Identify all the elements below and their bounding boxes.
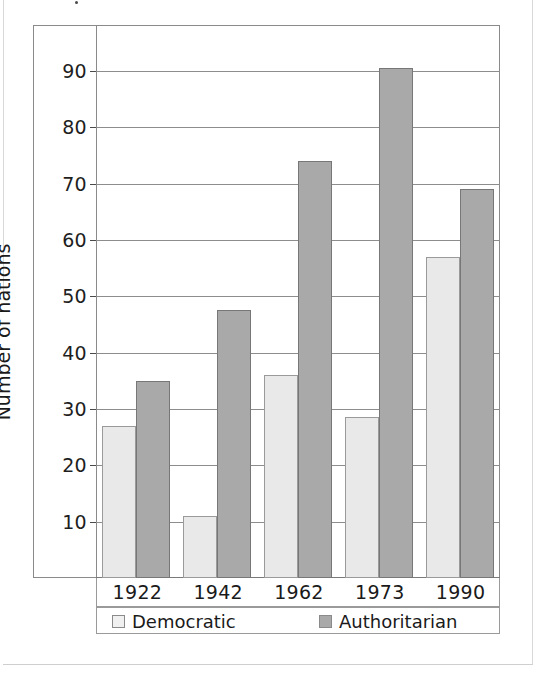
bar-democratic-1942 bbox=[183, 516, 217, 578]
legend-item-authoritarian[interactable]: Authoritarian bbox=[319, 608, 458, 635]
y-axis-tick bbox=[90, 296, 96, 297]
y-axis-tick-label: 60 bbox=[62, 229, 87, 251]
y-axis-tick-label: 30 bbox=[62, 398, 87, 420]
y-axis-tick bbox=[90, 71, 96, 72]
y-axis-tick-label: 90 bbox=[62, 60, 87, 82]
bar-democratic-1962 bbox=[264, 375, 298, 578]
y-axis-tick-label: 40 bbox=[62, 342, 87, 364]
y-axis-tick bbox=[90, 127, 96, 128]
y-axis-tick bbox=[90, 409, 96, 410]
y-axis-title: Number of nations bbox=[0, 232, 14, 432]
bar-authoritarian-1973 bbox=[379, 68, 413, 578]
bar-authoritarian-1942 bbox=[217, 310, 251, 578]
x-axis-label-1962: 1962 bbox=[259, 578, 340, 607]
x-axis-label-1990: 1990 bbox=[420, 578, 501, 607]
legend-label-authoritarian: Authoritarian bbox=[339, 611, 458, 632]
bar-authoritarian-1990 bbox=[460, 189, 494, 578]
x-axis-label-1922: 1922 bbox=[97, 578, 178, 607]
bar-democratic-1973 bbox=[345, 417, 379, 578]
gridline bbox=[96, 71, 500, 72]
y-axis-tick-label: 80 bbox=[62, 116, 87, 138]
authoritarian-swatch-icon bbox=[319, 615, 332, 628]
legend-label-democratic: Democratic bbox=[132, 611, 236, 632]
y-axis-tick-label: 20 bbox=[62, 454, 87, 476]
y-axis-tick-label: 10 bbox=[62, 511, 87, 533]
y-axis-tick bbox=[90, 465, 96, 466]
bar-democratic-1922 bbox=[102, 426, 136, 578]
legend-item-democratic[interactable]: Democratic bbox=[112, 608, 236, 635]
y-axis-tick bbox=[90, 522, 96, 523]
y-axis-tick bbox=[90, 184, 96, 185]
bar-authoritarian-1962 bbox=[298, 161, 332, 578]
democratic-swatch-icon bbox=[112, 615, 125, 628]
bar-authoritarian-1922 bbox=[136, 381, 170, 578]
plot-area: 102030405060708090 bbox=[96, 26, 500, 578]
chart-legend: Democratic Authoritarian bbox=[96, 607, 500, 634]
y-axis-tick bbox=[90, 240, 96, 241]
x-axis-label-1942: 1942 bbox=[178, 578, 259, 607]
y-axis-tick-label: 50 bbox=[62, 285, 87, 307]
scan-speck bbox=[75, 1, 78, 4]
x-axis-labels: 19221942196219731990 bbox=[96, 578, 500, 607]
x-axis-label-1973: 1973 bbox=[339, 578, 420, 607]
y-axis-tick bbox=[90, 353, 96, 354]
y-axis-tick-label: 70 bbox=[62, 173, 87, 195]
bar-democratic-1990 bbox=[426, 257, 460, 578]
gridline bbox=[96, 127, 500, 128]
